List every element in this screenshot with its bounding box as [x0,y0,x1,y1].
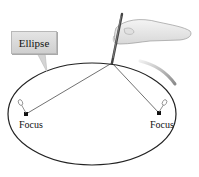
ellipse-callout-label: Ellipse [11,31,57,54]
focus-label-left: Focus [19,120,43,130]
thumbtack-icon-left [17,99,26,113]
hand-with-pen-icon [112,14,191,63]
ellipse-curve [8,63,176,165]
thumbtack-icon-right [159,99,168,112]
motion-arrow-icon [140,61,175,84]
callout-pointer [37,53,47,72]
focus-label-right: Focus [150,120,174,130]
ellipse-diagram [0,0,199,177]
string-left [26,63,112,114]
